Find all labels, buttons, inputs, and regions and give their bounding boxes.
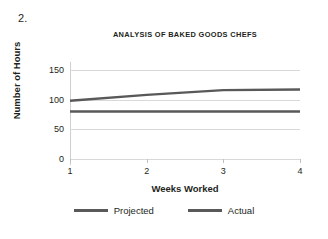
series-line-projected <box>70 90 300 101</box>
legend-item-projected[interactable]: Projected <box>74 205 154 216</box>
x-axis-tick-mark <box>70 159 71 163</box>
x-axis-tick-marks <box>70 159 300 164</box>
x-axis-title: Weeks Worked <box>60 183 310 194</box>
legend-item-actual[interactable]: Actual <box>188 205 254 216</box>
y-axis-title: Number of Hours <box>11 33 22 129</box>
legend-swatch-icon <box>74 209 108 212</box>
x-axis-tick-mark <box>147 159 148 163</box>
y-axis-tick-label: 50 <box>30 124 64 134</box>
y-axis-tick-label: 150 <box>30 65 64 75</box>
x-axis-tick-label: 1 <box>60 166 80 176</box>
x-axis-tick-label: 3 <box>213 166 233 176</box>
plot-area <box>70 64 300 159</box>
chart-title: ANALYSIS OF BAKED GOODS CHEFS <box>60 30 310 39</box>
series-lines <box>70 64 300 159</box>
chart-figure: 2. ANALYSIS OF BAKED GOODS CHEFS Number … <box>0 0 328 239</box>
legend-swatch-icon <box>188 209 222 212</box>
x-axis-tick-mark <box>300 159 301 163</box>
item-number-label: 2. <box>18 12 28 24</box>
x-axis-tick-label: 2 <box>137 166 157 176</box>
y-axis-tick-label: 0 <box>30 154 64 164</box>
y-axis-tick-label: 100 <box>30 95 64 105</box>
legend-label: Actual <box>228 205 254 216</box>
y-axis-tick-labels: 050100150 <box>28 64 64 159</box>
legend-label: Projected <box>114 205 154 216</box>
x-axis-tick-labels: 1234 <box>70 166 300 178</box>
chart-legend: ProjectedActual <box>0 205 328 216</box>
x-axis-tick-label: 4 <box>290 166 310 176</box>
x-axis-tick-mark <box>223 159 224 163</box>
